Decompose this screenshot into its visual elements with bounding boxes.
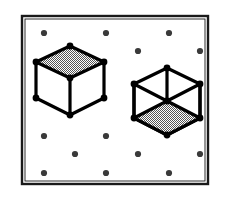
lattice-dot	[135, 151, 141, 157]
lattice-dot	[166, 30, 172, 36]
lattice-dot	[103, 170, 109, 176]
cube-vertex-dot	[33, 59, 40, 66]
cube-vertex-dot	[164, 65, 171, 72]
cube-vertex-dot	[33, 95, 40, 102]
lattice-dot	[72, 151, 78, 157]
cube-vertex-dot	[67, 43, 74, 50]
lattice-dot	[41, 170, 47, 176]
lattice-dot	[197, 48, 203, 54]
cube-vertex-dot	[164, 98, 171, 105]
lattice-dot	[41, 30, 47, 36]
lattice-dot	[103, 133, 109, 139]
cube-vertex-dot	[131, 81, 138, 88]
lattice-dot	[197, 151, 203, 157]
cube-vertex-dot	[197, 81, 204, 88]
cube-vertex-dot	[101, 95, 108, 102]
lattice-dot	[166, 170, 172, 176]
lattice-dot	[41, 133, 47, 139]
necker-cubes-figure	[0, 0, 230, 200]
lattice-dot	[103, 30, 109, 36]
cube-vertex-dot	[67, 112, 74, 119]
cube-vertex-dot	[67, 75, 74, 82]
cube-vertex-dot	[197, 115, 204, 122]
cube-vertex-dot	[101, 59, 108, 66]
cube-vertex-dot	[164, 132, 171, 139]
cube-vertex-dot	[131, 115, 138, 122]
figure-container	[0, 0, 230, 200]
lattice-dot	[135, 48, 141, 54]
